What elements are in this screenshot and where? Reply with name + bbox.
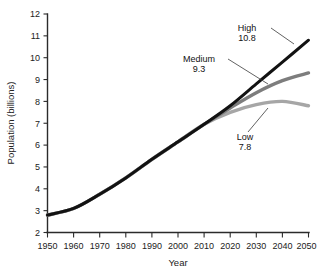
x-tick-label: 2050 xyxy=(296,241,316,251)
y-tick-label: 3 xyxy=(35,206,40,216)
annotation-label-low: Low xyxy=(237,132,254,142)
y-tick-label: 4 xyxy=(35,184,40,194)
x-tick-label: 1980 xyxy=(116,241,136,251)
series-line-medium xyxy=(48,73,309,215)
y-tick-label: 7 xyxy=(35,119,40,129)
leader-line-low xyxy=(248,108,268,132)
y-tick-label: 5 xyxy=(35,162,40,172)
annotation-label-high: High xyxy=(238,23,257,33)
y-tick-label: 6 xyxy=(35,140,40,150)
annotation-high: High 10.8 xyxy=(238,23,257,43)
x-tick-label: 1960 xyxy=(64,241,84,251)
y-tick-label: 8 xyxy=(35,97,40,107)
chart-canvas: 12 11 10 9 8 7 6 5 4 3 2 xyxy=(0,0,319,275)
x-tick-label: 2020 xyxy=(220,241,240,251)
y-tick-labels: 12 11 10 9 8 7 6 5 4 3 2 xyxy=(30,9,40,238)
y-tick-label: 12 xyxy=(30,9,40,19)
x-axis-title: Year xyxy=(168,257,187,268)
x-tick-label: 2010 xyxy=(194,241,214,251)
axis-group xyxy=(47,14,309,233)
annotation-value-low: 7.8 xyxy=(239,142,252,152)
series-line-low xyxy=(48,101,309,215)
x-tick-labels: 1950 1960 1970 1980 1990 2000 2010 2020 … xyxy=(37,241,316,251)
y-tick-label: 2 xyxy=(35,228,40,238)
y-tick-label: 10 xyxy=(30,53,40,63)
x-tick-label: 1990 xyxy=(142,241,162,251)
x-tick-label: 1950 xyxy=(37,241,57,251)
annotation-low: Low 7.8 xyxy=(237,132,254,152)
y-axis-title: Population (billions) xyxy=(5,82,16,165)
y-tick-label: 11 xyxy=(31,31,40,41)
population-projection-chart: 12 11 10 9 8 7 6 5 4 3 2 xyxy=(0,0,319,275)
annotation-label-medium: Medium xyxy=(183,54,215,64)
annotation-medium: Medium 9.3 xyxy=(183,54,215,74)
leader-line-medium xyxy=(228,59,268,84)
x-tick-label: 2040 xyxy=(272,241,292,251)
series-line-high xyxy=(48,40,309,215)
annotation-value-medium: 9.3 xyxy=(193,64,206,74)
series-group xyxy=(48,40,309,215)
x-tick-label: 1970 xyxy=(90,241,110,251)
x-tick-label: 2030 xyxy=(246,241,266,251)
annotation-value-high: 10.8 xyxy=(238,33,256,43)
x-tick-label: 2000 xyxy=(168,241,188,251)
leader-line-high xyxy=(271,28,294,44)
y-tick-label: 9 xyxy=(35,75,40,85)
x-tick-marks xyxy=(48,233,309,238)
